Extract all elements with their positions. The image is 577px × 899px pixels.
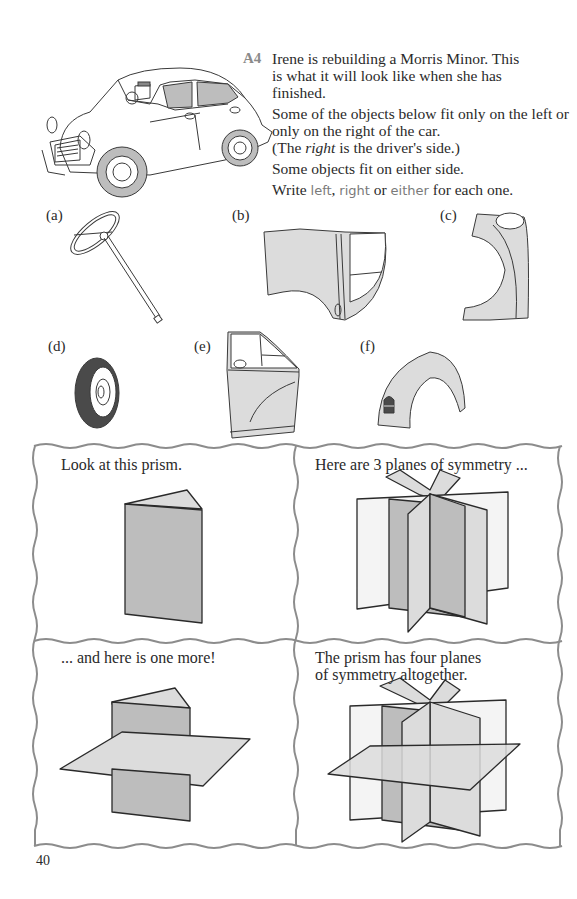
front-panel-illustration: [264, 229, 386, 320]
wheel-arch-illustration: [378, 352, 465, 428]
four-planes-illustration: [328, 678, 520, 842]
door-illustration: [227, 332, 299, 438]
panel-4-caption: The prism has four planes of symmetry al…: [315, 649, 481, 683]
prism-illustration: [125, 490, 202, 623]
tyre-illustration: [75, 358, 119, 428]
steering-wheel-illustration: [64, 205, 162, 324]
panel-1-caption: Look at this prism.: [61, 456, 182, 473]
three-planes-illustration: [357, 470, 508, 632]
illustrations: [0, 0, 577, 899]
rear-wing-illustration: [463, 213, 529, 320]
page-number: 40: [36, 853, 50, 869]
panel-2-caption: Here are 3 planes of symmetry ...: [315, 456, 528, 473]
panel-3-caption: ... and here is one more!: [61, 649, 216, 666]
prism-with-plane-illustration: [60, 688, 250, 821]
car-illustration: [42, 68, 272, 197]
